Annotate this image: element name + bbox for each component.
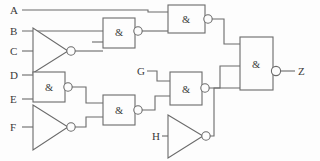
- input-label-c: C: [10, 45, 17, 57]
- wire-n7: [208, 66, 240, 88]
- input-label-b: B: [10, 25, 17, 37]
- gate-nand-2[interactable]: [168, 5, 212, 33]
- wire-n6: [141, 96, 170, 110]
- inverter-3-triangle: [168, 115, 203, 158]
- nand-1-label: &: [115, 27, 123, 38]
- wire-n3: [211, 19, 240, 44]
- nand-5-bubble: [201, 84, 209, 92]
- inverter-2-triangle: [33, 105, 68, 150]
- nand-4-label: &: [115, 105, 123, 116]
- nand-6-label: &: [252, 59, 260, 70]
- nand-4-bubble: [134, 106, 142, 114]
- wire-a: [22, 10, 168, 12]
- nand-5-label: &: [182, 84, 190, 95]
- gate-nand-6[interactable]: [240, 37, 281, 90]
- nand-3-label: &: [45, 82, 53, 93]
- wire-g: [147, 71, 170, 81]
- gate-inverter-1[interactable]: [33, 28, 75, 73]
- inverter-1-bubble: [67, 47, 75, 55]
- wire-n5: [74, 117, 103, 127]
- gate-inverter-3[interactable]: [168, 115, 210, 158]
- nand-2-label: &: [182, 14, 190, 25]
- inverter-1-triangle: [33, 28, 68, 73]
- input-label-a: A: [10, 4, 18, 16]
- nand-3-bubble: [64, 83, 72, 91]
- gate-inverter-2[interactable]: [33, 105, 75, 150]
- circuit-canvas: & & & & & & A B C D E F G H Z: [0, 0, 320, 161]
- inverter-3-bubble: [202, 132, 210, 140]
- input-label-d: D: [10, 69, 18, 81]
- logic-circuit-diagram: & & & & & & A B C D E F G H Z: [0, 0, 320, 161]
- inverter-2-bubble: [67, 123, 75, 131]
- nand-1-bubble: [134, 27, 142, 35]
- input-label-g: G: [137, 65, 145, 77]
- wire-n4: [71, 87, 103, 103]
- wire-n8: [209, 88, 240, 136]
- output-label-z: Z: [298, 65, 305, 77]
- input-label-e: E: [10, 93, 17, 105]
- input-label-f: F: [10, 121, 16, 133]
- input-label-h: H: [152, 130, 160, 142]
- nand-2-bubble: [204, 15, 212, 23]
- nand-6-bubble: [271, 66, 280, 75]
